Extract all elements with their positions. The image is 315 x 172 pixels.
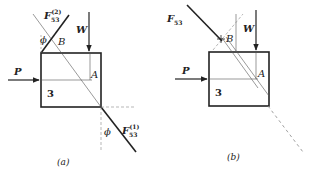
label-f53-2: F53(2) [43, 8, 61, 23]
label-f53-b: F53 [166, 13, 182, 26]
label-p-b: P [181, 65, 190, 76]
label-body-3-b: 3 [215, 87, 222, 98]
label-phi-top: ϕ [40, 34, 47, 45]
diagonal-line-a [33, 14, 101, 107]
force-f53-line [187, 5, 222, 41]
label-w-a: W [76, 24, 89, 35]
panel-b: F53 B W P A 3 (b) [166, 5, 303, 162]
figure-canvas: F53(2) ϕ B W P A 3 ϕ F53(1) (a) [0, 0, 315, 172]
diagonal-line-b-1 [222, 38, 258, 88]
label-phi-bottom: ϕ [104, 126, 111, 137]
label-w-b: W [243, 23, 256, 34]
label-f53-1: F53(1) [121, 123, 139, 138]
caption-b: (b) [227, 152, 240, 162]
label-b-b: B [225, 33, 233, 44]
dashed-continuation-b [268, 106, 303, 152]
label-body-3-a: 3 [47, 88, 54, 99]
panel-a: F53(2) ϕ B W P A 3 ϕ F53(1) (a) [8, 8, 139, 167]
label-a-a: A [90, 69, 98, 80]
diagonal-line-b-2 [226, 37, 269, 96]
label-p-a: P [13, 66, 22, 77]
label-a-b: A [257, 68, 265, 79]
caption-a: (a) [57, 157, 70, 167]
dashed-line-b-up [213, 14, 243, 50]
label-b-a: B [57, 36, 65, 47]
